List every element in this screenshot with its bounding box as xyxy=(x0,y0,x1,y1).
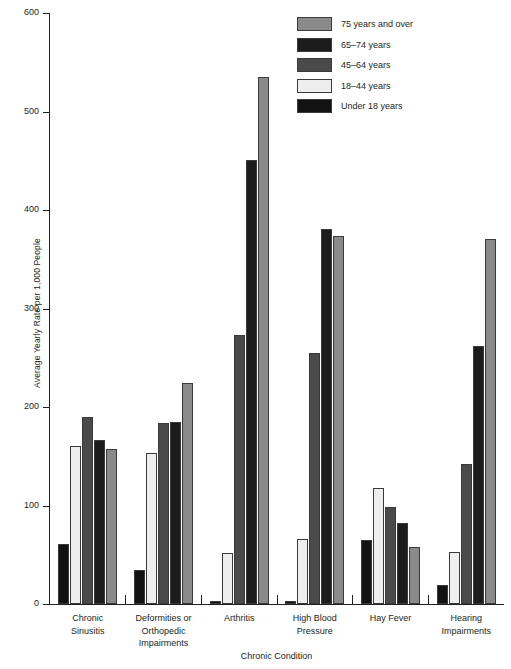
y-axis-tick: 100 xyxy=(43,506,50,507)
x-axis-line xyxy=(49,604,504,605)
x-axis-title: Chronic Condition xyxy=(49,651,504,661)
y-axis-tick-label: 200 xyxy=(0,401,39,411)
plot-area: 0100200300400500600 xyxy=(49,13,504,604)
legend-swatch xyxy=(297,99,332,113)
bar xyxy=(437,585,448,604)
bar xyxy=(373,488,384,604)
y-axis-tick: 200 xyxy=(43,407,50,408)
bar xyxy=(333,236,344,604)
bar xyxy=(473,346,484,604)
bar xyxy=(246,160,257,604)
bar-groups xyxy=(50,13,504,604)
y-axis-tick-label: 100 xyxy=(0,500,39,510)
y-axis-tick-label: 500 xyxy=(0,106,39,116)
legend-swatch xyxy=(297,17,332,31)
legend-swatch xyxy=(297,79,332,93)
x-axis-category-label: Deformities orOrthopedicImpairments xyxy=(126,612,202,650)
bar xyxy=(397,523,408,604)
legend-swatch xyxy=(297,58,332,72)
bar xyxy=(158,423,169,604)
bar xyxy=(361,540,372,604)
y-axis-tick-label: 300 xyxy=(0,303,39,313)
y-axis-title: Average Yearly Rate per 1,000 People xyxy=(32,193,42,433)
bar xyxy=(234,335,245,604)
x-axis-category-label: High BloodPressure xyxy=(277,612,353,650)
legend-label: 75 years and over xyxy=(341,19,413,29)
bar xyxy=(297,539,308,604)
bar xyxy=(321,229,332,604)
y-axis-tick: 0 xyxy=(43,604,50,605)
chart-legend: 75 years and over65–74 years45–64 years1… xyxy=(297,14,413,117)
legend-label: Under 18 years xyxy=(341,101,403,111)
bar xyxy=(309,353,320,604)
bar-group xyxy=(428,13,504,604)
y-axis-tick: 300 xyxy=(43,309,50,310)
bar xyxy=(385,507,396,604)
x-axis-category-label: Arthritis xyxy=(201,612,277,650)
y-axis-tick-label: 400 xyxy=(0,204,39,214)
bar xyxy=(449,552,460,604)
legend-item: 75 years and over xyxy=(297,14,413,35)
legend-swatch xyxy=(297,38,332,52)
legend-label: 45–64 years xyxy=(341,60,391,70)
x-axis-category-label: ChronicSinusitis xyxy=(50,612,126,650)
legend-item: 65–74 years xyxy=(297,35,413,56)
bar xyxy=(285,601,296,604)
legend-item: 18–44 years xyxy=(297,76,413,97)
bar xyxy=(106,449,117,604)
bar xyxy=(134,570,145,604)
bar xyxy=(170,422,181,604)
x-axis-category-label: HearingImpairments xyxy=(428,612,504,650)
bar-group xyxy=(50,13,126,604)
bar xyxy=(70,446,81,604)
y-axis-tick: 400 xyxy=(43,210,50,211)
x-axis-tick-labels: ChronicSinusitisDeformities orOrthopedic… xyxy=(50,612,504,650)
y-axis-tick-label: 0 xyxy=(0,598,39,608)
bar-chart: Average Yearly Rate per 1,000 People 010… xyxy=(0,0,511,669)
x-axis-category-label: Hay Fever xyxy=(353,612,429,650)
bar xyxy=(94,440,105,604)
bar-group xyxy=(201,13,277,604)
legend-item: 45–64 years xyxy=(297,55,413,76)
bar xyxy=(485,239,496,604)
bar xyxy=(58,544,69,604)
bar xyxy=(258,77,269,604)
bar-group xyxy=(126,13,202,604)
legend-label: 18–44 years xyxy=(341,81,391,91)
bar xyxy=(146,453,157,604)
legend-item: Under 18 years xyxy=(297,96,413,117)
y-axis-tick: 600 xyxy=(43,13,50,14)
y-axis-tick-label: 600 xyxy=(0,7,39,17)
bar xyxy=(222,553,233,604)
legend-label: 65–74 years xyxy=(341,40,391,50)
bar xyxy=(461,464,472,604)
bar xyxy=(82,417,93,604)
bar xyxy=(210,601,221,604)
bar xyxy=(182,383,193,604)
y-axis-tick: 500 xyxy=(43,112,50,113)
bar xyxy=(409,547,420,604)
